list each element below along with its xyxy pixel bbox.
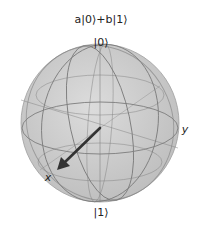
x-axis-label: x [45,171,52,184]
y-axis-label: y [182,123,189,136]
south-pole-label: |1⟩ [94,206,109,219]
north-pole-label: |0⟩ [94,36,109,49]
figure-title: a|0⟩+b|1⟩ [75,13,128,26]
